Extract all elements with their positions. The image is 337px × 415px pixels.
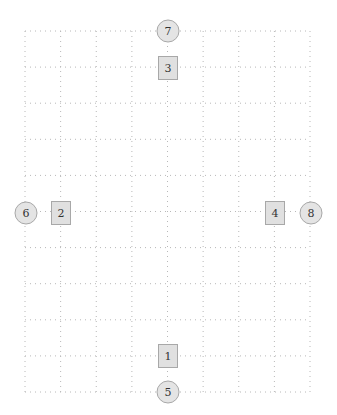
node-label: 1 — [165, 350, 172, 363]
node-label: 7 — [165, 25, 172, 38]
circle-node-7: 7 — [157, 20, 179, 42]
box-node-1: 1 — [159, 345, 178, 368]
circle-node-5: 5 — [157, 381, 179, 403]
node-label: 6 — [23, 207, 30, 220]
box-node-2: 2 — [52, 202, 71, 225]
nodes-layer: 56781234 — [15, 20, 322, 403]
node-label: 8 — [308, 207, 315, 220]
box-node-4: 4 — [266, 202, 285, 225]
circle-node-8: 8 — [300, 202, 322, 224]
node-label: 3 — [165, 62, 172, 75]
box-node-3: 3 — [159, 57, 178, 80]
node-label: 2 — [58, 207, 65, 220]
node-label: 5 — [165, 386, 172, 399]
grid-diagram: 56781234 — [0, 0, 337, 415]
circle-node-6: 6 — [15, 202, 37, 224]
node-label: 4 — [272, 207, 279, 220]
